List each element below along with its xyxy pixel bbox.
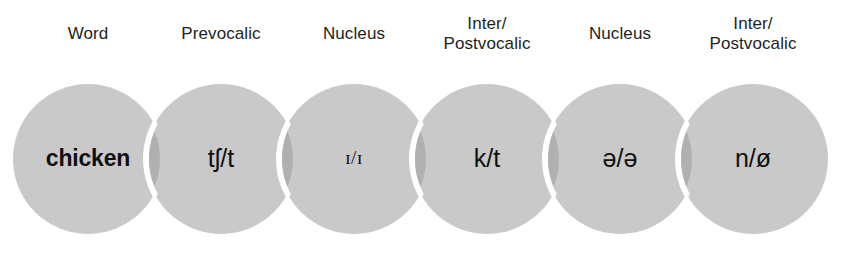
circle-1 [146,84,296,234]
circle-3 [412,84,562,234]
circle-2 [279,84,429,234]
circle-4 [545,84,695,234]
phonological-segmentation-diagram: WordPrevocalicNucleusInter/ PostvocalicN… [0,0,844,256]
circle-5 [678,84,828,234]
circle-chain-graphic [0,0,844,256]
circle-0 [13,84,163,234]
